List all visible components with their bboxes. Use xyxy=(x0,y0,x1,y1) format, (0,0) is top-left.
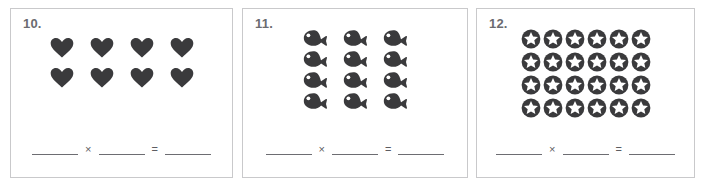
answer-line-11: × = xyxy=(243,143,467,155)
icon-row xyxy=(520,75,652,95)
heart-icon xyxy=(50,67,74,88)
factor1-blank-10[interactable] xyxy=(32,143,78,155)
fish-icon xyxy=(342,92,368,110)
fish-icon xyxy=(342,29,368,47)
factor2-blank-12[interactable] xyxy=(563,143,609,155)
star-in-circle-icon xyxy=(631,29,651,49)
icon-row xyxy=(520,29,652,49)
factor1-blank-11[interactable] xyxy=(266,143,312,155)
answer-line-12: × = xyxy=(477,143,694,155)
heart-icon xyxy=(170,37,194,58)
star-in-circle-icon xyxy=(543,52,563,72)
heart-icon xyxy=(130,37,154,58)
product-blank-11[interactable] xyxy=(398,143,444,155)
star-in-circle-icon xyxy=(631,98,651,118)
star-in-circle-icon xyxy=(565,29,585,49)
equals-operator-12: = xyxy=(609,144,629,155)
heart-icon xyxy=(90,37,114,58)
fish-icon xyxy=(302,50,328,68)
star-in-circle-icon xyxy=(543,98,563,118)
fish-icon xyxy=(382,50,408,68)
icon-grid-stars xyxy=(477,29,694,121)
icon-grid-hearts xyxy=(11,37,232,97)
star-in-circle-icon xyxy=(587,75,607,95)
star-in-circle-icon xyxy=(565,52,585,72)
star-in-circle-icon xyxy=(543,29,563,49)
icon-row xyxy=(42,37,202,58)
worksheet-container: 10. × = 11. × = 12. × = xyxy=(0,0,703,185)
star-in-circle-icon xyxy=(543,75,563,95)
star-in-circle-icon xyxy=(631,52,651,72)
product-blank-12[interactable] xyxy=(629,143,675,155)
factor2-blank-11[interactable] xyxy=(332,143,378,155)
problem-box-12: 12. × = xyxy=(476,8,695,178)
multiplication-operator-10: × xyxy=(78,144,98,155)
heart-icon xyxy=(50,37,74,58)
star-in-circle-icon xyxy=(631,75,651,95)
problem-number-10: 10. xyxy=(23,17,42,30)
fish-icon xyxy=(382,71,408,89)
icon-row xyxy=(295,92,415,110)
star-in-circle-icon xyxy=(521,75,541,95)
equals-operator-11: = xyxy=(378,144,398,155)
star-in-circle-icon xyxy=(521,29,541,49)
star-in-circle-icon xyxy=(587,52,607,72)
star-in-circle-icon xyxy=(609,52,629,72)
equals-operator-10: = xyxy=(145,144,165,155)
star-in-circle-icon xyxy=(521,52,541,72)
icon-row xyxy=(520,98,652,118)
fish-icon xyxy=(382,29,408,47)
icon-grid-fish xyxy=(243,29,467,113)
star-in-circle-icon xyxy=(609,98,629,118)
star-in-circle-icon xyxy=(609,75,629,95)
fish-icon xyxy=(302,71,328,89)
star-in-circle-icon xyxy=(565,75,585,95)
star-in-circle-icon xyxy=(521,98,541,118)
fish-icon xyxy=(302,29,328,47)
multiplication-operator-12: × xyxy=(542,144,562,155)
fish-icon xyxy=(342,50,368,68)
star-in-circle-icon xyxy=(565,98,585,118)
fish-icon xyxy=(382,92,408,110)
icon-row xyxy=(295,50,415,68)
icon-row xyxy=(42,67,202,88)
icon-row xyxy=(295,71,415,89)
star-in-circle-icon xyxy=(587,29,607,49)
fish-icon xyxy=(342,71,368,89)
heart-icon xyxy=(170,67,194,88)
heart-icon xyxy=(90,67,114,88)
heart-icon xyxy=(130,67,154,88)
star-in-circle-icon xyxy=(587,98,607,118)
problem-box-11: 11. × = xyxy=(242,8,468,178)
fish-icon xyxy=(302,92,328,110)
icon-row xyxy=(520,52,652,72)
factor1-blank-12[interactable] xyxy=(496,143,542,155)
icon-row xyxy=(295,29,415,47)
product-blank-10[interactable] xyxy=(165,143,211,155)
star-in-circle-icon xyxy=(609,29,629,49)
problem-box-10: 10. × = xyxy=(10,8,233,178)
answer-line-10: × = xyxy=(11,143,232,155)
multiplication-operator-11: × xyxy=(312,144,332,155)
factor2-blank-10[interactable] xyxy=(99,143,145,155)
